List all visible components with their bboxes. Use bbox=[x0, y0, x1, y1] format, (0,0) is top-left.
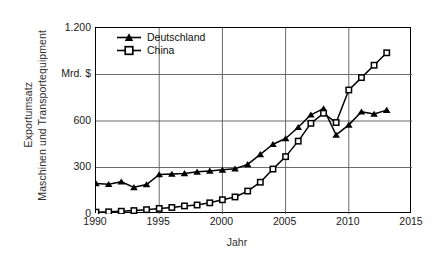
legend-item-deutschland: Deutschland bbox=[116, 31, 205, 44]
x-tick-label-2015: 2015 bbox=[399, 216, 422, 227]
open-square-marker-icon bbox=[116, 44, 142, 57]
x-axis-title-text: Jahr bbox=[227, 236, 247, 248]
y-tick-label-600: 600 bbox=[45, 115, 91, 126]
x-axis-title: Jahr bbox=[0, 236, 434, 248]
x-tick-label-2010: 2010 bbox=[336, 216, 359, 227]
y-tick-label-300: 300 bbox=[45, 161, 91, 172]
y-tick-label-unit: Mrd. $ bbox=[45, 68, 91, 79]
x-tick-label-1990: 1990 bbox=[83, 216, 106, 227]
x-tick-label-1995: 1995 bbox=[147, 216, 170, 227]
x-tick-label-2000: 2000 bbox=[210, 216, 233, 227]
filled-triangle-marker-icon bbox=[116, 31, 142, 44]
y-axis-title-line-1: Exportumsatz bbox=[22, 82, 34, 147]
y-tick-label-1200: 1.200 bbox=[45, 22, 91, 33]
legend: Deutschland China bbox=[116, 31, 205, 57]
legend-item-china: China bbox=[116, 44, 205, 57]
x-tick-label-2005: 2005 bbox=[273, 216, 296, 227]
chart-figure: Exportumsatz Maschinen und Transportequi… bbox=[0, 0, 434, 265]
x-axis-tick-labels: 199019952000200520102015 bbox=[0, 216, 434, 232]
legend-label-china: China bbox=[147, 44, 174, 57]
legend-label-deutschland: Deutschland bbox=[147, 31, 205, 44]
